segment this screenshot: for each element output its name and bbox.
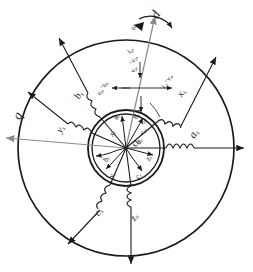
stator-phase-ys-axis (28, 92, 126, 148)
rotor-phase-axes (96, 116, 153, 171)
stator-phase-as-axis (126, 144, 244, 148)
machine-cross-section-figure: d ωr q θr θr as xs bs ys cs zs ar xr br … (0, 0, 253, 272)
stator-phase-cs-axis (68, 148, 126, 244)
terminal-ticks (112, 62, 172, 112)
d-axis (126, 16, 155, 148)
theta-r-arc (133, 103, 160, 117)
diagram-canvas (0, 0, 253, 272)
stator-phase-zs-axis (126, 148, 131, 264)
